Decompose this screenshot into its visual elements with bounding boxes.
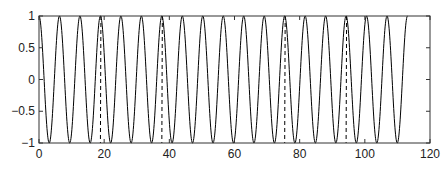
series-line-solid [39,16,408,143]
x-tick-label: 120 [420,147,440,161]
series-line-dashed-segment [100,16,101,143]
plot-area [39,16,408,143]
series-line-dashed-segment [346,16,347,143]
x-tick-label: 60 [228,147,242,161]
y-tick-label: 1 [28,9,35,23]
y-tick-label: 0 [28,73,35,87]
series-line-dashed-segment [285,16,286,143]
x-tick-label: 80 [293,147,307,161]
chart: 020406080100120 −1−0.500.51 [0,0,445,169]
y-tick-label: 0.5 [18,41,35,55]
x-tick-label: 100 [355,147,375,161]
x-tick-label: 0 [36,147,43,161]
x-tick-label: 20 [97,147,111,161]
series-line-dashed-segment [162,16,163,143]
x-tick-label: 40 [163,147,177,161]
y-tick-label: −0.5 [11,104,35,118]
y-tick-label: −1 [21,136,35,150]
